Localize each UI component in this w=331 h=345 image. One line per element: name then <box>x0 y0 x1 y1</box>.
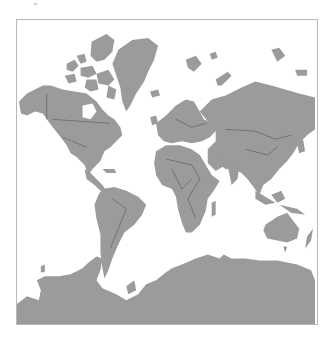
region-asia <box>200 82 315 195</box>
region-arctic-islands <box>65 34 117 100</box>
region-antarctica <box>17 254 315 324</box>
region-south-america <box>94 187 146 278</box>
map-canvas <box>17 20 317 324</box>
region-australia <box>263 213 299 243</box>
stray-mark <box>34 3 37 5</box>
region-north-america <box>19 86 122 175</box>
region-greenland <box>112 38 158 112</box>
world-map[interactable]: World map (Mercator projection) <box>16 19 318 325</box>
